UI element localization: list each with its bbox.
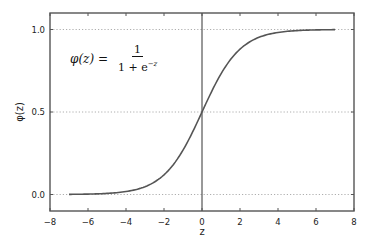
x-axis-label: z [199,226,204,237]
y-axis-label: φ(z) [14,102,25,122]
x-tick-label: −4 [120,217,133,227]
x-tick-label: 4 [275,217,280,227]
formula-lhs: φ(z) = [70,52,108,66]
formula-denominator-base: 1 + e [118,61,148,74]
x-tick-label: 8 [351,217,356,227]
y-tick-label: 0.0 [31,190,45,200]
formula-exponent: −z [148,60,158,68]
formula-denominator: 1 + e−z [118,57,157,75]
y-tick-label: 0.5 [31,107,45,117]
sigmoid-chart: −8−6−4−202468 0.00.51.0 z φ(z) [0,0,369,244]
x-tick-label: 2 [237,217,242,227]
formula-fraction: 1 1 + e−z [118,43,157,75]
x-tick-label: −2 [158,217,171,227]
formula-numerator: 1 [132,43,143,57]
x-tick-label: −8 [44,217,57,227]
y-tick-label: 1.0 [31,25,45,35]
x-tick-label: 6 [313,217,318,227]
sigmoid-formula: φ(z) = 1 1 + e−z [70,43,157,75]
x-tick-label: −6 [82,217,95,227]
